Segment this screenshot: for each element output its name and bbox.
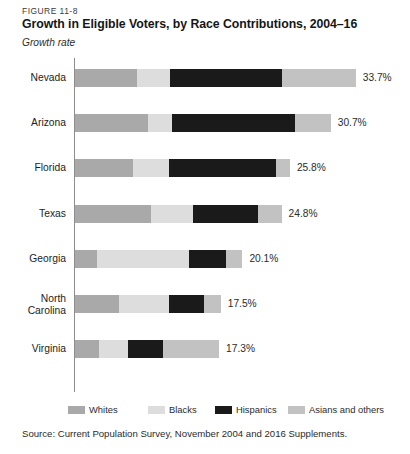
bar-row: Georgia20.1% (0, 250, 410, 270)
bar-row: Nevada33.7% (0, 69, 410, 89)
bar-segment-whites (75, 114, 148, 132)
category-label-line: North (0, 293, 66, 305)
bar-row: Texas24.8% (0, 205, 410, 225)
category-label-line: Arizona (0, 117, 66, 129)
legend-label: Blacks (169, 404, 197, 415)
bar-segment-hispanics (128, 340, 163, 358)
figure-container: FIGURE 11-8 Growth in Eligible Voters, b… (0, 0, 410, 454)
category-label: NorthCarolina (0, 293, 66, 316)
bar-segment-whites (75, 159, 133, 177)
stacked-bar (75, 340, 219, 358)
stacked-bar (75, 205, 282, 223)
bar-segment-asians (226, 250, 243, 268)
stacked-bar (75, 114, 331, 132)
stacked-bar (75, 250, 242, 268)
legend-label: Whites (89, 404, 118, 415)
bar-segment-blacks (97, 250, 189, 268)
legend-item-whites[interactable]: Whites (68, 400, 118, 412)
bar-segment-hispanics (193, 205, 258, 223)
bar-segment-whites (75, 205, 151, 223)
chart-legend: WhitesBlacksHispanicsAsians and others (0, 400, 410, 414)
category-label: Florida (0, 162, 66, 174)
bar-segment-whites (75, 295, 119, 313)
bar-value-label: 30.7% (338, 117, 367, 128)
bar-value-label: 20.1% (249, 253, 278, 264)
category-label-line: Carolina (0, 305, 66, 317)
bar-segment-asians (163, 340, 219, 358)
bar-value-label: 17.5% (228, 298, 257, 309)
bar-segment-hispanics (169, 295, 204, 313)
category-label: Nevada (0, 72, 66, 84)
legend-label: Asians and others (309, 404, 384, 415)
legend-item-asians[interactable]: Asians and others (288, 400, 384, 412)
bar-segment-whites (75, 69, 137, 87)
source-note: Source: Current Population Survey, Novem… (22, 428, 347, 439)
bar-segment-blacks (119, 295, 169, 313)
bar-segment-whites (75, 250, 97, 268)
bar-segment-hispanics (172, 114, 294, 132)
category-label: Georgia (0, 253, 66, 265)
stacked-bar (75, 69, 356, 87)
bar-segment-blacks (148, 114, 172, 132)
legend-label: Hispanics (236, 404, 277, 415)
legend-swatch-blacks (148, 406, 165, 414)
bar-row: Arizona30.7% (0, 114, 410, 134)
bar-segment-whites (75, 340, 99, 358)
chart-plot-area: Nevada33.7%Arizona30.7%Florida25.8%Texas… (0, 0, 410, 454)
category-label-line: Nevada (0, 72, 66, 84)
bar-row: NorthCarolina17.5% (0, 295, 410, 315)
bar-segment-blacks (137, 69, 170, 87)
legend-swatch-hispanics (215, 406, 232, 414)
legend-item-blacks[interactable]: Blacks (148, 400, 197, 412)
bar-segment-asians (276, 159, 290, 177)
category-label-line: Texas (0, 208, 66, 220)
bar-segment-asians (282, 69, 356, 87)
category-label: Virginia (0, 343, 66, 355)
legend-item-hispanics[interactable]: Hispanics (215, 400, 277, 412)
bar-row: Virginia17.3% (0, 340, 410, 360)
bar-segment-blacks (133, 159, 169, 177)
bar-value-label: 17.3% (226, 343, 255, 354)
category-label-line: Virginia (0, 343, 66, 355)
bar-value-label: 25.8% (297, 162, 326, 173)
bar-row: Florida25.8% (0, 159, 410, 179)
category-label-line: Georgia (0, 253, 66, 265)
bar-value-label: 33.7% (363, 72, 392, 83)
category-label: Arizona (0, 117, 66, 129)
bar-segment-hispanics (170, 69, 282, 87)
bar-value-label: 24.8% (289, 208, 318, 219)
bar-segment-asians (204, 295, 221, 313)
bar-segment-asians (258, 205, 281, 223)
category-label: Texas (0, 208, 66, 220)
bar-segment-asians (295, 114, 331, 132)
category-label-line: Florida (0, 162, 66, 174)
stacked-bar (75, 159, 290, 177)
bar-segment-hispanics (169, 159, 276, 177)
stacked-bar (75, 295, 221, 313)
bar-segment-blacks (151, 205, 193, 223)
legend-swatch-asians (288, 406, 305, 414)
legend-swatch-whites (68, 406, 85, 414)
bar-segment-blacks (99, 340, 128, 358)
bar-segment-hispanics (189, 250, 226, 268)
